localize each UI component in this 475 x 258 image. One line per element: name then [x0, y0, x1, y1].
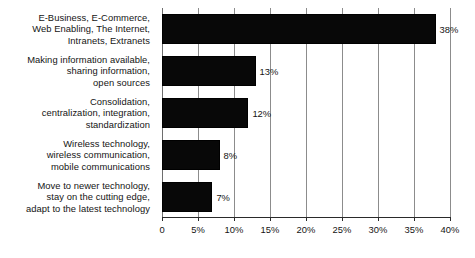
x-tick-label: 35% [405, 224, 424, 235]
x-tick-mark [414, 217, 415, 221]
bar-value-label: 7% [212, 192, 230, 203]
x-tick-mark [378, 217, 379, 221]
category-label-line: open sources [0, 77, 150, 88]
bar[interactable] [162, 56, 256, 86]
x-tick-mark [450, 217, 451, 221]
category-label-line: stay on the cutting edge, [0, 191, 150, 202]
x-tick-mark [162, 217, 163, 221]
bar-band: 38% [162, 14, 450, 44]
x-tick-label: 40% [441, 224, 460, 235]
x-tick-mark [234, 217, 235, 221]
bar[interactable] [162, 182, 212, 212]
category-label-column: E-Business, E-Commerce,Web Enabling, The… [0, 8, 155, 218]
bar-band: 8% [162, 140, 450, 170]
category-label-line: sharing information, [0, 65, 150, 76]
category-label-line: Intranets, Extranets [0, 35, 150, 46]
category-label: E-Business, E-Commerce,Web Enabling, The… [0, 12, 150, 46]
x-tick-label: 10% [225, 224, 244, 235]
category-label-line: centralization, integration, [0, 107, 150, 118]
bar-band: 7% [162, 182, 450, 212]
category-label-line: standardization [0, 119, 150, 130]
bar-value-label: 38% [436, 24, 459, 35]
bar[interactable] [162, 98, 248, 128]
bar[interactable] [162, 140, 220, 170]
x-axis: 05%10%15%20%25%30%35%40% [162, 221, 450, 241]
bar-value-label: 8% [220, 150, 238, 161]
category-label: Consolidation,centralization, integratio… [0, 96, 150, 130]
category-label-line: wireless communication, [0, 149, 150, 160]
category-label-line: Consolidation, [0, 96, 150, 107]
x-tick-label: 15% [261, 224, 280, 235]
category-label: Wireless technology,wireless communicati… [0, 138, 150, 172]
x-tick-mark [270, 217, 271, 221]
category-label-line: Wireless technology, [0, 138, 150, 149]
category-label: Move to newer technology,stay on the cut… [0, 180, 150, 214]
x-tick-mark [198, 217, 199, 221]
category-label-line: adapt to the latest technology [0, 203, 150, 214]
gridline [450, 8, 451, 218]
bar-chart: E-Business, E-Commerce,Web Enabling, The… [0, 0, 475, 258]
x-tick-mark [306, 217, 307, 221]
category-label: Making information available,sharing inf… [0, 54, 150, 88]
category-label-line: mobile communications [0, 161, 150, 172]
x-tick-label: 0 [159, 224, 164, 235]
x-tick-label: 5% [191, 224, 205, 235]
category-label-line: Move to newer technology, [0, 180, 150, 191]
bar-value-label: 13% [256, 66, 279, 77]
bar-band: 12% [162, 98, 450, 128]
bar-value-label: 12% [248, 108, 271, 119]
bar-band: 13% [162, 56, 450, 86]
x-tick-label: 25% [333, 224, 352, 235]
category-label-line: Web Enabling, The Internet, [0, 23, 150, 34]
x-tick-label: 30% [369, 224, 388, 235]
plot-area: 38%13%12%8%7% [162, 8, 450, 218]
x-tick-label: 20% [297, 224, 316, 235]
bar[interactable] [162, 14, 436, 44]
x-tick-mark [342, 217, 343, 221]
category-label-line: Making information available, [0, 54, 150, 65]
category-label-line: E-Business, E-Commerce, [0, 12, 150, 23]
